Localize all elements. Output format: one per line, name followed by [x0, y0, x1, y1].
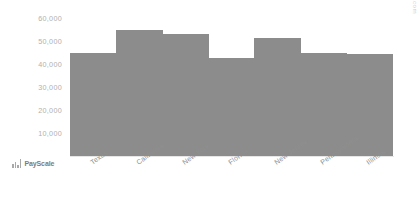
- bar: [116, 30, 163, 157]
- y-axis-tick-label: 60,000: [2, 14, 62, 23]
- bar-chart-icon: [12, 159, 21, 168]
- bar: [70, 53, 117, 157]
- y-axis-tick-label: 50,000: [2, 37, 62, 46]
- bar: [254, 38, 301, 157]
- watermark-text: © PayScale, Inc. © www.payscale.com: [412, 0, 419, 14]
- payscale-logo: PayScale: [12, 159, 54, 168]
- plot-area: [70, 8, 392, 157]
- y-axis: 60,000 50,000 40,000 30,000 20,000 10,00…: [0, 0, 70, 165]
- y-axis-tick-label: 10,000: [2, 129, 62, 138]
- y-axis-tick-label: 30,000: [2, 83, 62, 92]
- y-axis-tick-label: 20,000: [2, 106, 62, 115]
- y-axis-tick-label: 40,000: [2, 60, 62, 69]
- x-axis: TexasCaliforniaNew YorkFloridaNew Jersey…: [70, 158, 392, 207]
- bar: [208, 58, 255, 157]
- bar-series: [70, 8, 392, 157]
- bar: [162, 34, 209, 157]
- bar-chart: 60,000 50,000 40,000 30,000 20,000 10,00…: [0, 0, 420, 207]
- brand-name: PayScale: [24, 159, 54, 168]
